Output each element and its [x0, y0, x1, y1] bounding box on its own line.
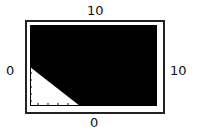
label-right: 10: [170, 64, 187, 77]
label-left: 0: [6, 64, 14, 77]
label-top: 10: [87, 4, 104, 17]
plot-area: [30, 25, 157, 106]
plot-svg: [30, 25, 157, 106]
label-bottom: 0: [90, 116, 98, 129]
